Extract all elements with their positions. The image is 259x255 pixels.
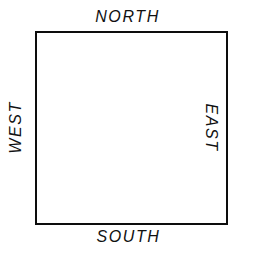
- label-east: EAST: [195, 0, 227, 255]
- label-west: WEST: [0, 0, 32, 255]
- cardinal-directions-diagram: NORTH SOUTH WEST EAST: [0, 0, 259, 255]
